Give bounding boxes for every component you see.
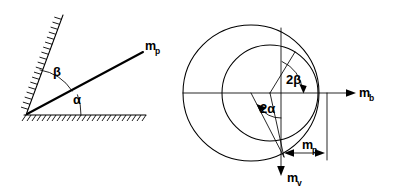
right-panel-mohr-circles: 2β 2α m b m v m p [183, 25, 374, 188]
mp-dimension-left-arrowhead [284, 149, 294, 157]
mb-label-subscript: b [369, 93, 374, 103]
physics-diagram: α β m p [0, 0, 393, 195]
mv-axis-arrowhead [277, 166, 285, 176]
figure-root: α β m p [0, 0, 393, 195]
mp-dimension-label-subscript: p [312, 145, 317, 155]
two-beta-label: 2β [286, 72, 301, 87]
mv-label-subscript: v [297, 178, 302, 188]
ground-hatching [22, 115, 146, 121]
alpha-label: α [73, 92, 81, 107]
two-alpha-label: 2α [260, 101, 275, 116]
left-panel-wedge-geometry: α β m p [21, 15, 160, 121]
beta-label: β [53, 64, 61, 79]
mb-axis-arrowhead [346, 89, 356, 97]
mp-label-left-subscript: p [155, 46, 160, 56]
mp-vector-ray [27, 52, 143, 114]
